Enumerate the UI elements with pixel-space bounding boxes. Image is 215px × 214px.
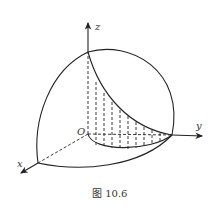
origin-label: O — [77, 126, 85, 137]
y-axis — [172, 135, 202, 136]
figure-caption: 图 10.6 — [92, 188, 127, 199]
figure-diagram: z y x O 图 10.6 — [0, 0, 215, 214]
inner-curve — [88, 52, 172, 135]
right-boundary-arc — [88, 49, 174, 135]
y-axis-dashed — [88, 134, 172, 135]
left-boundary-curve — [37, 52, 88, 163]
z-axis-label: z — [94, 21, 101, 32]
x-axis-label: x — [17, 158, 23, 169]
x-axis — [21, 163, 38, 173]
x-axis-dashed — [38, 134, 88, 163]
bottom-boundary-curve — [38, 135, 172, 167]
y-axis-label: y — [195, 120, 202, 131]
